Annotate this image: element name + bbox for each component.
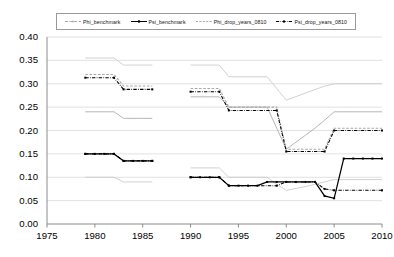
y-axis-tick-label: 0.40 <box>8 31 38 42</box>
y-axis-tick-label: 0.30 <box>8 78 38 89</box>
y-axis-tick-label: 0.15 <box>8 148 38 159</box>
series-psi-drop-years-0810 <box>84 77 383 192</box>
series-phi-benchmark <box>85 97 382 149</box>
series-psi-benchmark <box>84 153 383 199</box>
y-axis-tick-label: 0.05 <box>8 195 38 206</box>
x-axis-tick-label: 1975 <box>30 230 64 241</box>
y-axis-tick-label: 0.00 <box>8 218 38 229</box>
y-axis-tick-label: 0.10 <box>8 171 38 182</box>
chart-container: Phi_benchmark Psi_benchmark Phi_drop_yea… <box>0 0 394 257</box>
y-axis-tick-label: 0.35 <box>8 54 38 65</box>
gridlines <box>47 37 382 201</box>
x-axis-ticks <box>47 224 382 228</box>
x-axis-tick-label: 2010 <box>365 230 394 241</box>
y-axis-tick-label: 0.25 <box>8 101 38 112</box>
x-axis-tick-label: 1995 <box>221 230 255 241</box>
x-axis-tick-label: 2000 <box>269 230 303 241</box>
x-axis-tick-label: 2005 <box>317 230 351 241</box>
chart-plot-area <box>0 0 394 257</box>
series-phi-benchmark-upper-band <box>85 58 382 100</box>
x-axis-tick-label: 1980 <box>78 230 112 241</box>
data-series-layer <box>84 58 383 199</box>
x-axis-tick-label: 1985 <box>126 230 160 241</box>
y-axis-tick-label: 0.20 <box>8 125 38 136</box>
x-axis-tick-label: 1990 <box>174 230 208 241</box>
